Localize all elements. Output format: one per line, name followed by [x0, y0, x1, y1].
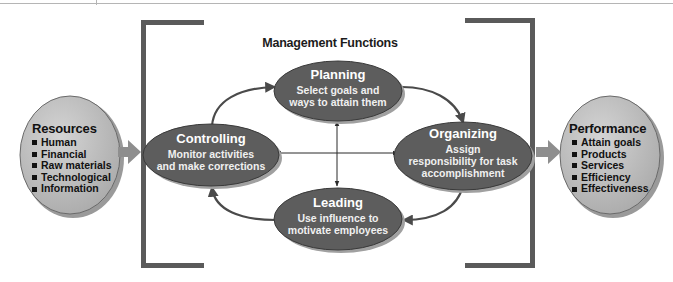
node-organizing-desc-line2: responsibility for task	[396, 155, 530, 167]
square-bullet-icon	[572, 140, 577, 145]
square-bullet-icon	[572, 152, 577, 157]
square-bullet-icon	[32, 163, 37, 168]
resources-list-item: Information	[32, 183, 112, 195]
node-leading-desc-line1: Use influence to	[276, 212, 400, 224]
node-planning-desc-line1: Select goals and	[276, 84, 400, 96]
square-bullet-icon	[32, 175, 37, 180]
square-bullet-icon	[32, 187, 37, 192]
square-bullet-icon	[32, 152, 37, 157]
node-planning-desc-line2: ways to attain them	[276, 96, 400, 108]
performance-list: Attain goals Products Services Efficienc…	[569, 137, 649, 195]
node-organizing-title: Organizing	[396, 127, 530, 142]
curved-arrow-icon	[212, 188, 276, 220]
square-bullet-icon	[572, 187, 577, 192]
curved-arrow-icon	[212, 87, 274, 126]
node-planning: Planning Select goals and ways to attain…	[276, 68, 400, 108]
node-organizing: Organizing Assign responsibility for tas…	[396, 127, 530, 179]
node-planning-title: Planning	[276, 68, 400, 83]
block-arrow-right-icon	[536, 140, 561, 164]
node-organizing-desc-line1: Assign	[396, 143, 530, 155]
node-leading-title: Leading	[276, 196, 400, 211]
node-leading-desc-line2: motivate employees	[276, 224, 400, 236]
square-bullet-icon	[572, 163, 577, 168]
resources-heading: Resources	[32, 121, 112, 136]
curved-arrow-icon	[402, 87, 463, 122]
performance-heading: Performance	[569, 121, 649, 136]
node-controlling-desc-line2: and make corrections	[145, 160, 277, 172]
node-controlling-title: Controlling	[145, 132, 277, 147]
square-bullet-icon	[32, 140, 37, 145]
node-controlling-desc-line1: Monitor activities	[145, 148, 277, 160]
resources-panel: Resources Human Financial Raw materials …	[32, 121, 112, 195]
square-bullet-icon	[572, 175, 577, 180]
diagram-title: Management Functions	[210, 36, 450, 50]
node-organizing-desc-line3: accomplishment	[396, 167, 530, 179]
performance-list-item: Effectiveness	[572, 183, 649, 195]
resources-list: Human Financial Raw materials Technologi…	[32, 137, 112, 195]
node-controlling: Controlling Monitor activities and make …	[145, 132, 277, 172]
performance-panel: Performance Attain goals Products Servic…	[569, 121, 649, 195]
node-leading: Leading Use influence to motivate employ…	[276, 196, 400, 236]
